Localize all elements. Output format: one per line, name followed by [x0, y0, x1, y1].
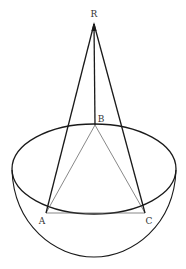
edge-RB	[94, 24, 95, 125]
bowl-rim-ellipse	[12, 124, 176, 214]
label-A: A	[39, 217, 46, 226]
hemisphere-pyramid-diagram	[0, 0, 186, 269]
label-B: B	[98, 115, 105, 124]
label-C: C	[146, 217, 153, 226]
edge-RA	[46, 24, 94, 213]
apex-arrowhead	[92, 22, 97, 31]
label-R: R	[91, 10, 98, 19]
edge-BC	[95, 125, 145, 213]
edge-BA	[46, 125, 95, 213]
